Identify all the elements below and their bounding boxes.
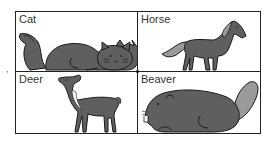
beaver-icon	[138, 72, 261, 134]
cat-icon	[16, 12, 138, 72]
grid-junction	[136, 70, 139, 73]
panel-beaver: Beaver	[137, 71, 261, 134]
panel-deer: Deer	[15, 71, 138, 134]
deer-icon	[16, 72, 138, 134]
horse-icon	[138, 12, 261, 72]
side-mark: ,	[6, 64, 9, 74]
panel-horse: Horse	[137, 11, 261, 72]
animal-grid: Cat Horse	[15, 11, 261, 134]
panel-cat: Cat	[15, 11, 138, 72]
